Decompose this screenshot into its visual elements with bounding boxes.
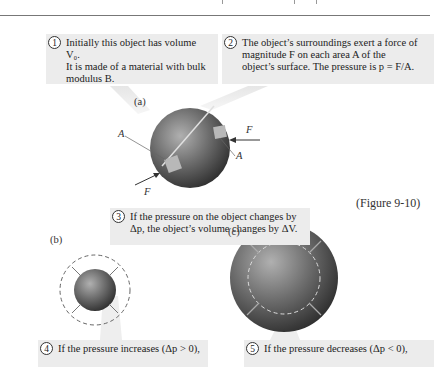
figure-label: (Figure 9-10) <box>356 196 420 211</box>
area-label: A <box>118 128 124 139</box>
sphere-a <box>150 108 230 188</box>
step-number: 5 <box>246 342 259 355</box>
force-label: F <box>144 186 150 197</box>
step-number: 1 <box>48 36 61 49</box>
panel-label-c: (c) <box>228 226 240 237</box>
area-label: A <box>236 150 242 161</box>
panel-label-b: (b) <box>50 234 62 245</box>
step-number: 2 <box>224 36 237 49</box>
callout-2: 2 The object’s surroundings exert a forc… <box>222 34 434 84</box>
callout-1: 1 Initially this object has volume V₀. I… <box>46 34 218 84</box>
callout-5: 5 If the pressure decreases (Δp < 0), <box>244 340 434 367</box>
panel-label-a: (a) <box>134 96 146 107</box>
callout-3: 3 If the pressure on the object changes … <box>110 208 310 245</box>
step-number: 3 <box>112 210 125 223</box>
force-label: F <box>246 124 252 135</box>
callout-4: 4 If the pressure increases (Δp > 0), <box>38 340 208 367</box>
step-number: 4 <box>40 342 53 355</box>
